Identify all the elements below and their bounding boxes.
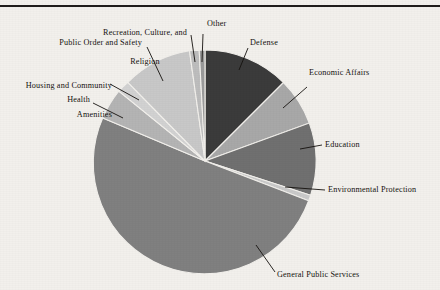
label-housing-line1: Housing and Community	[0, 81, 112, 91]
label-other: Other	[207, 19, 226, 29]
label-public-order-and-safety: Public Order and Safety	[18, 38, 142, 48]
pie-chart-figure: Recreation, Culture, and Religion Other …	[0, 0, 440, 290]
label-defense: Defense	[250, 38, 278, 48]
label-recreation-line1: Recreation, Culture, and	[84, 28, 206, 38]
label-environmental-protection: Environmental Protection	[328, 185, 416, 195]
label-economic-affairs: Economic Affairs	[309, 68, 369, 78]
label-general-public-services: General Public Services	[277, 270, 359, 280]
label-education: Education	[325, 140, 360, 150]
label-health: Health	[28, 95, 90, 105]
label-housing-line2: Amenities	[0, 110, 112, 120]
